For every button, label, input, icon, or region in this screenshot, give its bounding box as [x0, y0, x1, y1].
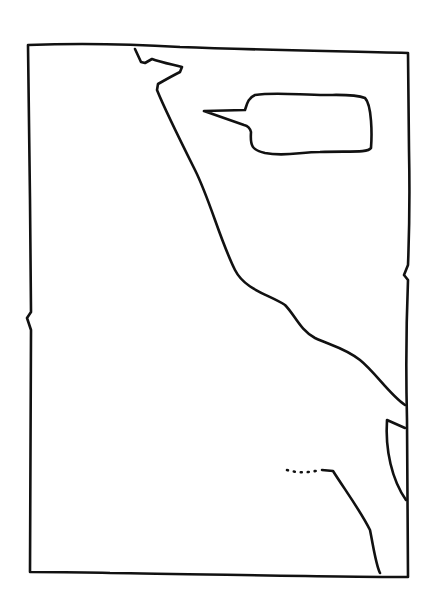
sketch-drawing	[0, 0, 442, 610]
dotted-trail	[287, 470, 320, 472]
speech-bubble-text	[260, 110, 360, 140]
right-edge-shape	[387, 420, 406, 500]
figure-contour-left	[135, 49, 405, 405]
comic-panel-canvas	[0, 0, 442, 610]
figure-contour-lower	[322, 470, 380, 573]
